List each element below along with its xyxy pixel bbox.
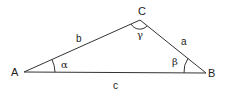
triangle-diagram: A B C a b c α β γ	[0, 0, 225, 94]
angle-label-alpha: α	[61, 60, 68, 70]
angle-arc-alpha	[52, 60, 55, 73]
side-label-c: c	[113, 81, 118, 91]
vertex-label-a: A	[11, 67, 18, 78]
vertex-label-c: C	[138, 6, 146, 17]
triangle-abc	[24, 20, 206, 73]
angle-arc-beta	[184, 59, 188, 73]
angle-label-gamma: γ	[137, 30, 143, 40]
angle-label-beta: β	[172, 57, 178, 67]
vertex-label-b: B	[208, 68, 215, 79]
side-label-b: b	[76, 34, 82, 44]
side-label-a: a	[181, 37, 187, 47]
